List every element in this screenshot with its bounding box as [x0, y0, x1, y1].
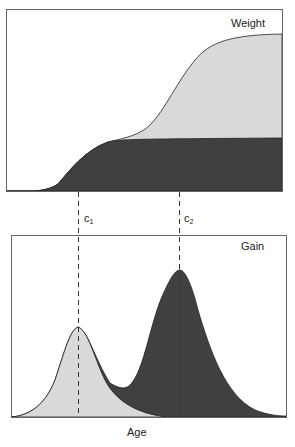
gain-panel [12, 236, 287, 418]
weight-panel [7, 10, 283, 192]
gain-title: Gain [241, 240, 264, 252]
x-axis-label: Age [127, 426, 147, 438]
diagram-canvas [0, 0, 295, 447]
weight-title: Weight [231, 17, 265, 29]
c2-label: c2 [184, 212, 193, 225]
c1-label: c1 [84, 212, 93, 225]
